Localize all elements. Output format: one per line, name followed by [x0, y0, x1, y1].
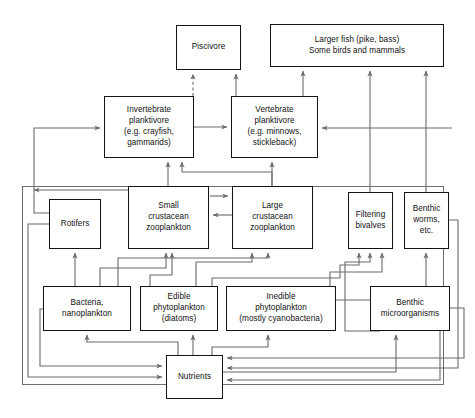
node-edible-phytoplankton: Edible phytoplankton (diatoms) [140, 286, 218, 331]
node-invertebrate-planktivore-label: Invertebrate planktivore (e.g. crayfish,… [124, 105, 174, 148]
node-larger-fish: Larger fish (pike, bass) Some birds and … [270, 24, 444, 67]
node-large-crustacean-zooplankton-label: Large crustacean zooplankton [250, 201, 295, 233]
node-benthic-microorganisms-label: Benthic microorganisms [381, 298, 439, 320]
node-larger-fish-label: Larger fish (pike, bass) Some birds and … [309, 35, 405, 57]
node-benthic-microorganisms: Benthic microorganisms [370, 286, 450, 331]
node-rotifers-label: Rotifers [61, 219, 90, 230]
node-nutrients-label: Nutrients [178, 372, 211, 383]
node-rotifers: Rotifers [49, 199, 101, 249]
node-piscivore: Piscivore [176, 25, 241, 70]
node-benthic-worms: Benthic worms, etc. [404, 192, 449, 249]
node-small-crustacean-zooplankton: Small crustacean zooplankton [128, 186, 209, 249]
node-small-crustacean-zooplankton-label: Small crustacean zooplankton [146, 201, 191, 233]
node-invertebrate-planktivore: Invertebrate planktivore (e.g. crayfish,… [104, 96, 194, 158]
node-edible-phytoplankton-label: Edible phytoplankton (diatoms) [153, 292, 205, 324]
node-filtering-bivalves-label: Filtering bivalves [356, 210, 386, 232]
node-bacteria-nanoplankton-label: Bacteria, nanoplankton [62, 298, 112, 320]
node-inedible-phytoplankton-label: Inedible phytoplankton (mostly cyanobact… [239, 292, 322, 324]
node-filtering-bivalves: Filtering bivalves [348, 192, 393, 249]
node-large-crustacean-zooplankton: Large crustacean zooplankton [232, 186, 313, 249]
food-web-diagram: Piscivore Larger fish (pike, bass) Some … [0, 0, 475, 418]
node-piscivore-label: Piscivore [192, 42, 226, 53]
node-bacteria-nanoplankton: Bacteria, nanoplankton [43, 286, 131, 331]
node-vertebrate-planktivore: Vertebrate planktivore (e.g. minnows, st… [231, 96, 318, 158]
node-benthic-worms-label: Benthic worms, etc. [413, 204, 441, 236]
node-nutrients: Nutrients [166, 355, 223, 399]
node-inedible-phytoplankton: Inedible phytoplankton (mostly cyanobact… [226, 286, 336, 331]
node-vertebrate-planktivore-label: Vertebrate planktivore (e.g. minnows, st… [248, 105, 302, 148]
